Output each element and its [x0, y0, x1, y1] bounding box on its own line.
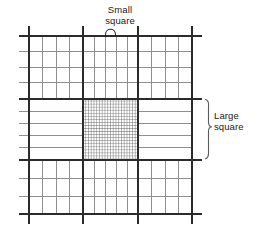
- fine-ruled-center-block: [83, 99, 138, 160]
- large-square-label: Large square: [214, 110, 260, 132]
- large-square-brace: [206, 100, 212, 159]
- small-square-label: Small square: [78, 4, 162, 26]
- small-square-brace: [106, 29, 116, 34]
- hemocytometer-diagram: Small square Large square: [0, 0, 261, 230]
